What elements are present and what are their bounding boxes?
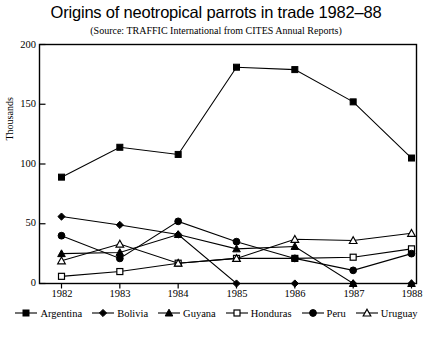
legend-item-guyana[interactable]: Guyana	[157, 307, 216, 319]
series-line	[62, 67, 412, 177]
data-point-marker	[175, 151, 181, 157]
data-point-marker	[23, 310, 29, 316]
data-point-marker	[233, 238, 240, 245]
data-point-marker	[291, 280, 298, 287]
data-point-marker	[309, 310, 316, 317]
data-point-marker	[116, 255, 123, 262]
data-point-marker	[100, 309, 107, 316]
plot-area	[0, 0, 432, 337]
data-point-marker	[59, 273, 65, 279]
legend-item-peru[interactable]: Peru	[301, 307, 346, 319]
series-argentina	[59, 64, 415, 180]
legend-marker-filled-triangle	[157, 307, 181, 319]
legend-label: Honduras	[251, 308, 292, 319]
legend-item-uruguay[interactable]: Uruguay	[355, 307, 418, 319]
legend-item-honduras[interactable]: Honduras	[225, 307, 292, 319]
data-point-marker	[175, 218, 182, 225]
data-series-layer	[58, 64, 416, 287]
data-point-marker	[234, 310, 240, 316]
data-point-marker	[291, 255, 298, 262]
chart-legend: ArgentinaBoliviaGuyanaHondurasPeruUrugua…	[0, 307, 432, 319]
data-point-marker	[58, 232, 65, 239]
legend-label: Peru	[327, 308, 346, 319]
data-point-marker	[117, 269, 123, 275]
chart-figure: Origins of neotropical parrots in trade …	[0, 0, 432, 337]
data-point-marker	[292, 67, 298, 73]
legend-marker-open-triangle	[355, 307, 379, 319]
data-point-marker	[408, 230, 416, 237]
legend-item-argentina[interactable]: Argentina	[14, 307, 82, 319]
data-point-marker	[234, 64, 240, 70]
legend-marker-filled-square	[14, 307, 38, 319]
data-point-marker	[117, 144, 123, 150]
legend-label: Argentina	[40, 308, 82, 319]
data-point-marker	[59, 174, 65, 180]
y-axis-ticks	[40, 45, 46, 284]
legend-marker-filled-diamond	[91, 307, 115, 319]
data-point-marker	[350, 267, 357, 274]
legend-label: Guyana	[183, 308, 216, 319]
data-point-marker	[116, 240, 124, 247]
legend-label: Uruguay	[381, 308, 418, 319]
legend-marker-filled-circle	[301, 307, 325, 319]
data-point-marker	[350, 99, 356, 105]
legend-item-bolivia[interactable]: Bolivia	[91, 307, 148, 319]
data-point-marker	[58, 213, 65, 220]
legend-marker-open-square	[225, 307, 249, 319]
data-point-marker	[116, 221, 123, 228]
data-point-marker	[409, 155, 415, 161]
data-point-marker	[408, 250, 415, 257]
data-point-marker	[350, 254, 356, 260]
legend-label: Bolivia	[117, 308, 148, 319]
